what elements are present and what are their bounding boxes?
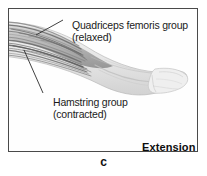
panel-label-extension: Extension (142, 141, 195, 152)
figure-frame: Quadriceps femoris group (relaxed) Hamst… (8, 8, 198, 152)
figure-caption-letter: c (0, 155, 207, 169)
label-quadriceps-femoris-group: Quadriceps femoris group (relaxed) (72, 20, 188, 43)
label-hamstring-group: Hamstring group (contracted) (53, 97, 128, 120)
anatomy-figure: Quadriceps femoris group (relaxed) Hamst… (0, 0, 207, 176)
foot (148, 68, 188, 93)
